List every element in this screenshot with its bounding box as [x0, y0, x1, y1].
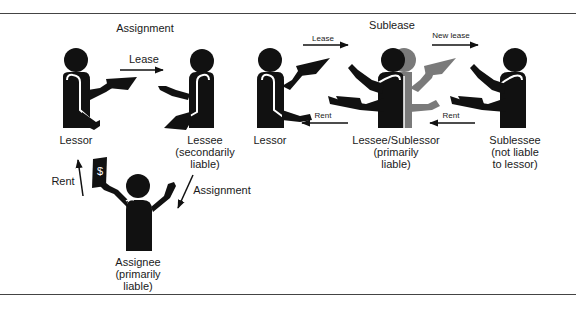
assignment-arrow-icon: [178, 175, 193, 208]
lessee-line1: Lessee: [170, 134, 240, 146]
assignee-figure-icon: [100, 174, 176, 251]
sublease-lessor-label: Lessor: [250, 134, 290, 146]
lessee-sublessor-figure-icon: [328, 48, 405, 128]
assignee-label: Assignee (primarily liable): [110, 256, 166, 292]
lessee-sublessor-label: Lessee/Sublessor (primarily liable): [348, 134, 444, 170]
assignee-line3: liable): [110, 280, 166, 292]
sublease-lease-label: Lease: [308, 34, 338, 43]
sublease-rent-left-label: Rent: [310, 111, 336, 120]
sublessee-label: Sublessee (not liable to lessor): [480, 134, 550, 170]
new-lease-label: New lease: [428, 31, 474, 40]
assignment-lease-label: Lease: [128, 53, 160, 65]
assignment-arrow-label: Assignment: [192, 184, 252, 196]
lessee-line2: (secondarily: [170, 146, 240, 158]
rent-up-arrow-icon: [78, 160, 83, 196]
lessee-figure-icon: [158, 49, 214, 130]
sublessor-line2: (primarily: [348, 146, 444, 158]
assignee-line2: (primarily: [110, 268, 166, 280]
assignment-title: Assignment: [110, 22, 180, 34]
lessor-figure-icon: [63, 48, 137, 130]
assignee-line1: Assignee: [110, 256, 166, 268]
sublessor-line3: liable): [348, 158, 444, 170]
dollar-symbol-icon: $: [94, 165, 106, 177]
assignment-lessee-label: Lessee (secondarily liable): [170, 134, 240, 170]
assignment-lessor-label: Lessor: [56, 134, 96, 146]
lessee-line3: liable): [170, 158, 240, 170]
sublessee-line3: to lessor): [480, 158, 550, 170]
sublessee-line1: Sublessee: [480, 134, 550, 146]
sublease-title: Sublease: [364, 19, 420, 31]
sublessee-line2: (not liable: [480, 146, 550, 158]
assignment-rent-label: Rent: [50, 175, 76, 187]
sublease-rent-right-label: Rent: [438, 111, 464, 120]
sublessor-line1: Lessee/Sublessor: [348, 134, 444, 146]
